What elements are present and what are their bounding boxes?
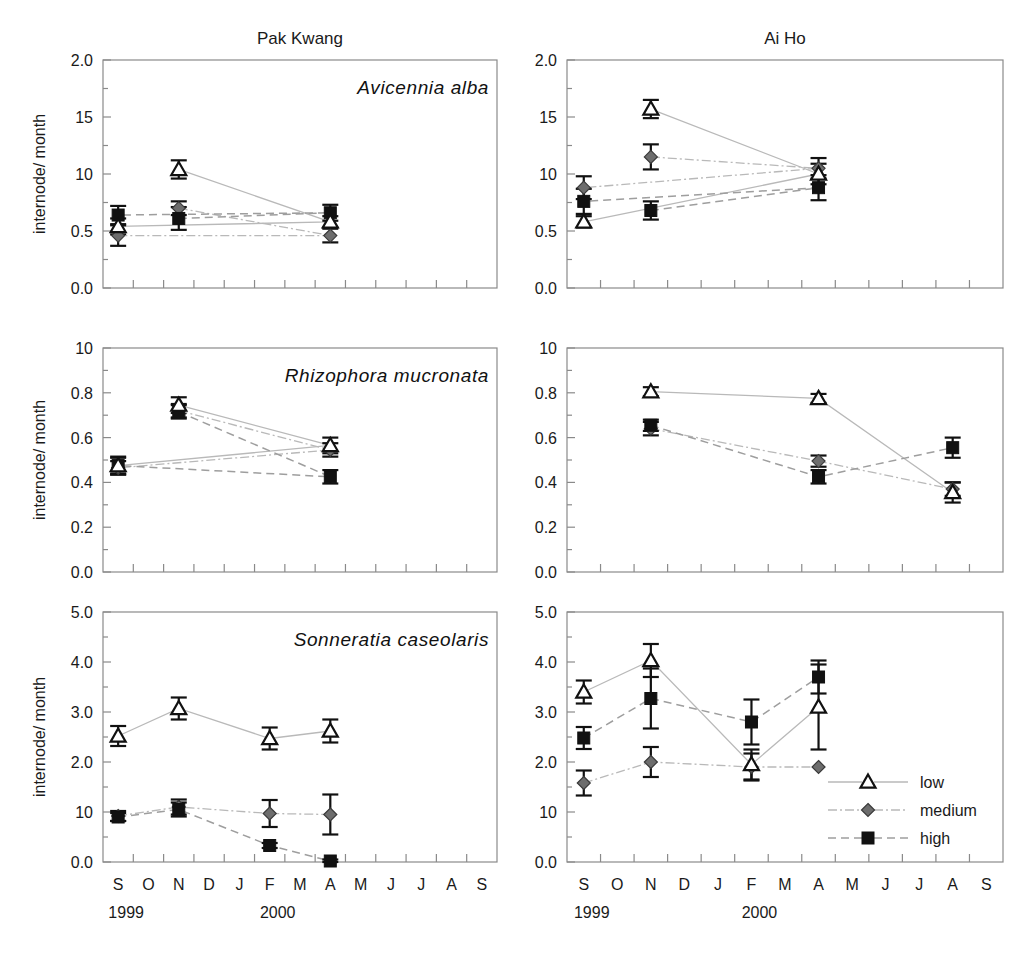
y-tick-label-pakkwang-sonneratia-1: 4.0	[71, 654, 93, 671]
y-tick-label-pakkwang-sonneratia-0: 5.0	[71, 604, 93, 621]
marker-high-aiho-sonneratia-1	[645, 693, 657, 705]
series-line-low-pakkwang-rhizophora	[118, 405, 330, 465]
legend-label-high: high	[920, 830, 950, 847]
y-tick-label-pakkwang-rhizophora-4: 0.2	[71, 519, 93, 536]
x-tick-label-pakkwang-sonneratia-4: J	[235, 876, 243, 893]
marker-medium-aiho-sonneratia-1	[644, 756, 657, 769]
figure-svg: Pak KwangAi Ho2.015100.50.0Avicennia alb…	[0, 0, 1029, 953]
marker-medium-legend-medium	[862, 804, 875, 817]
column-title-ai-ho: Ai Ho	[764, 29, 806, 48]
series-line-medium-aiho-avicennia	[584, 157, 819, 188]
marker-low-pakkwang-avicennia-0	[171, 162, 186, 175]
species-label-pakkwang-sonneratia: Sonneratia caseolaris	[294, 629, 489, 650]
x-tick-label-aiho-sonneratia-1: O	[611, 876, 623, 893]
x-tick-label-pakkwang-sonneratia-10: J	[417, 876, 425, 893]
marker-high-aiho-avicennia-0	[645, 204, 657, 216]
y-tick-label-pakkwang-sonneratia-2: 3.0	[71, 704, 93, 721]
marker-low-aiho-sonneratia-1	[643, 653, 658, 666]
y-tick-label-pakkwang-avicennia-1: 15	[75, 109, 93, 126]
y-tick-label-aiho-rhizophora-0: 10	[539, 340, 557, 357]
x-tick-label-aiho-sonneratia-7: A	[813, 876, 824, 893]
x-tick-label-aiho-sonneratia-11: A	[947, 876, 958, 893]
series-line-medium-pakkwang-sonneratia	[118, 807, 330, 816]
x-tick-label-aiho-sonneratia-0: S	[578, 876, 589, 893]
y-tick-label-pakkwang-avicennia-2: 10	[75, 166, 93, 183]
marker-low-pakkwang-sonneratia-1	[171, 701, 186, 714]
marker-high-aiho-rhizophora-2	[947, 442, 959, 454]
marker-high-aiho-sonneratia-0	[578, 732, 590, 744]
y-tick-label-aiho-sonneratia-2: 3.0	[535, 704, 557, 721]
y-axis-label-pakkwang-rhizophora: internode/ month	[31, 400, 48, 520]
x-tick-label-pakkwang-sonneratia-1: O	[142, 876, 154, 893]
marker-high-pakkwang-sonneratia-1	[173, 804, 185, 816]
y-tick-label-aiho-rhizophora-1: 0.8	[535, 385, 557, 402]
y-tick-label-aiho-sonneratia-5: 0.0	[535, 854, 557, 871]
series-line-low-pakkwang-avicennia	[118, 169, 330, 226]
y-tick-label-pakkwang-rhizophora-3: 0.4	[71, 474, 93, 491]
series-line-low-aiho-sonneratia	[584, 661, 819, 765]
marker-low-pakkwang-sonneratia-3	[323, 724, 338, 737]
legend-label-medium: medium	[920, 802, 977, 819]
x-tick-label-pakkwang-sonneratia-0: S	[113, 876, 124, 893]
x-tick-label-pakkwang-sonneratia-9: J	[387, 876, 395, 893]
x-year-label-pakkwang-sonneratia-1: 2000	[260, 904, 296, 921]
marker-medium-pakkwang-sonneratia-3	[324, 808, 337, 821]
x-tick-label-pakkwang-sonneratia-8: M	[354, 876, 367, 893]
x-tick-label-pakkwang-sonneratia-7: A	[325, 876, 336, 893]
marker-high-aiho-sonneratia-3	[813, 671, 825, 683]
plot-frame-aiho-sonneratia	[567, 612, 1003, 862]
series-line-low-pakkwang-sonneratia	[118, 709, 330, 739]
marker-high-aiho-avicennia-1	[813, 182, 825, 194]
species-label-pakkwang-avicennia: Avicennia alba	[356, 77, 489, 98]
marker-low-aiho-sonneratia-0	[576, 685, 591, 698]
species-label-pakkwang-rhizophora: Rhizophora mucronata	[285, 365, 489, 386]
y-tick-label-aiho-sonneratia-3: 2.0	[535, 754, 557, 771]
marker-medium-pakkwang-avicennia-1	[324, 229, 337, 242]
y-tick-label-aiho-rhizophora-2: 0.6	[535, 430, 557, 447]
legend-label-low: low	[920, 774, 944, 791]
marker-high-pakkwang-sonneratia-3	[324, 855, 336, 867]
marker-medium-aiho-avicennia-0	[644, 150, 657, 163]
y-tick-label-aiho-rhizophora-3: 0.4	[535, 474, 557, 491]
y-tick-label-aiho-rhizophora-5: 0.0	[535, 564, 557, 581]
series-line-medium-pakkwang-avicennia	[118, 208, 330, 235]
y-tick-label-pakkwang-rhizophora-1: 0.8	[71, 385, 93, 402]
x-tick-label-pakkwang-sonneratia-11: A	[446, 876, 457, 893]
x-tick-label-aiho-sonneratia-2: N	[645, 876, 657, 893]
plot-frame-aiho-avicennia	[567, 60, 1003, 288]
x-tick-label-pakkwang-sonneratia-12: S	[477, 876, 488, 893]
y-tick-label-pakkwang-sonneratia-5: 0.0	[71, 854, 93, 871]
series-line-high-pakkwang-avicennia	[118, 213, 330, 219]
x-tick-label-aiho-sonneratia-12: S	[981, 876, 992, 893]
y-tick-label-pakkwang-sonneratia-4: 10	[75, 804, 93, 821]
marker-high-pakkwang-avicennia-0	[173, 212, 185, 224]
x-tick-label-aiho-sonneratia-10: J	[915, 876, 923, 893]
x-tick-label-aiho-sonneratia-5: F	[747, 876, 757, 893]
y-tick-label-pakkwang-avicennia-4: 0.0	[71, 280, 93, 297]
plot-frame-aiho-rhizophora	[567, 348, 1003, 572]
y-tick-label-aiho-avicennia-3: 0.5	[535, 223, 557, 240]
marker-high-pakkwang-rhizophora-1	[324, 471, 336, 483]
x-tick-label-pakkwang-sonneratia-2: N	[173, 876, 185, 893]
marker-medium-aiho-sonneratia-0	[577, 777, 590, 790]
y-tick-label-pakkwang-avicennia-3: 0.5	[71, 223, 93, 240]
y-tick-label-pakkwang-rhizophora-5: 0.0	[71, 564, 93, 581]
marker-high-pakkwang-sonneratia-2	[264, 840, 276, 852]
marker-high-aiho-rhizophora-0	[645, 419, 657, 431]
y-tick-label-aiho-sonneratia-1: 4.0	[535, 654, 557, 671]
x-tick-label-aiho-sonneratia-8: M	[845, 876, 858, 893]
marker-low-pakkwang-sonneratia-0	[111, 729, 126, 742]
y-tick-label-aiho-avicennia-0: 2.0	[535, 52, 557, 69]
series-line-high-pakkwang-sonneratia	[118, 810, 330, 862]
series-line-high-aiho-sonneratia	[584, 677, 819, 738]
x-tick-label-pakkwang-sonneratia-5: F	[265, 876, 275, 893]
marker-high-aiho-avicennia-2	[578, 195, 590, 207]
series-line-medium-pakkwang-rhizophora	[118, 411, 330, 468]
x-tick-label-pakkwang-sonneratia-3: D	[203, 876, 215, 893]
series-line-medium-aiho-rhizophora	[651, 429, 953, 489]
y-axis-label-pakkwang-avicennia: internode/ month	[31, 114, 48, 234]
x-tick-label-pakkwang-sonneratia-6: M	[293, 876, 306, 893]
x-tick-label-aiho-sonneratia-3: D	[679, 876, 691, 893]
y-tick-label-pakkwang-rhizophora-0: 10	[75, 340, 93, 357]
marker-medium-aiho-avicennia-2	[577, 181, 590, 194]
